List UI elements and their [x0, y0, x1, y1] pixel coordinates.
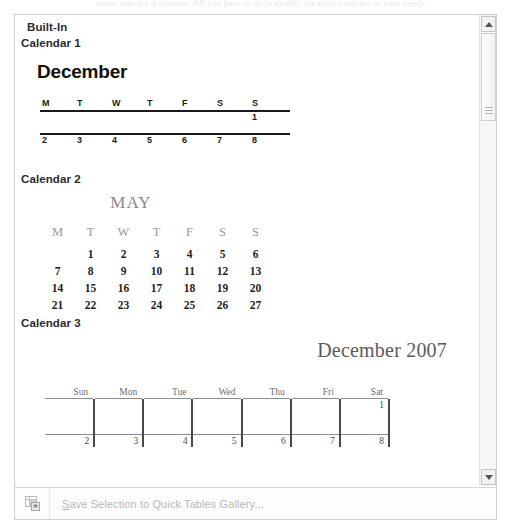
calendar-3-date-cell	[143, 399, 192, 435]
gallery-scrollbar[interactable]	[479, 15, 496, 486]
calendar-2-date-cell: 25	[173, 296, 206, 313]
calendar-2-date-cell: 5	[206, 245, 239, 262]
quick-tables-gallery-panel: Built-In Calendar 1 December M T W T F S…	[14, 14, 497, 520]
triangle-down-icon	[485, 475, 493, 480]
calendar-2-date-cell: 8	[74, 262, 107, 279]
calendar-1-date-cell	[110, 112, 145, 122]
gallery-item-calendar-2[interactable]: MAY M T W T F S S	[15, 187, 479, 315]
calendar-3-date-cell: 3	[94, 435, 143, 448]
scrollbar-up-button[interactable]	[481, 16, 496, 32]
calendar-3-day-header: Tue	[143, 387, 192, 399]
calendar-3-date-cell	[192, 399, 241, 435]
background-document-text: insert into the document. All you have t…	[96, 0, 513, 9]
calendar-3-week-row: 2 3 4 5 6 7 8	[45, 435, 389, 448]
calendar-2-week-row: 1 2 3 4 5 6	[41, 245, 272, 262]
calendar-1-date-cell	[215, 112, 250, 122]
calendar-1-day-header: T	[145, 98, 180, 108]
calendar-1-date-cell	[145, 112, 180, 122]
calendar-2-date-cell: 23	[107, 296, 140, 313]
gallery-item-calendar-1[interactable]: December M T W T F S S	[15, 51, 479, 171]
quick-tables-gallery-screen: insert into the document. All you have t…	[0, 0, 513, 530]
save-table-to-gallery-icon	[15, 488, 50, 519]
command-label-rest: ave Selection to Quick Tables Gallery...	[69, 498, 263, 510]
calendar-1-day-header-row: M T W T F S S	[40, 98, 285, 108]
calendar-2-date-cell: 16	[107, 279, 140, 296]
gallery-item-label-calendar-1: Calendar 1	[15, 35, 479, 51]
gallery-scroll-area[interactable]: Built-In Calendar 1 December M T W T F S…	[15, 15, 479, 486]
calendar-1-day-header: M	[40, 98, 75, 108]
calendar-2-day-header: T	[140, 225, 173, 245]
calendar-3-week-row: 1	[45, 399, 389, 435]
calendar-2-date-cell: 2	[107, 245, 140, 262]
calendar-3-day-header-row: Sun Mon Tue Wed Thu Fri Sat	[45, 387, 389, 399]
gallery-item-label-calendar-3: Calendar 3	[15, 315, 479, 331]
calendar-2-day-header-row: M T W T F S S	[41, 225, 272, 245]
calendar-2-date-cell: 1	[74, 245, 107, 262]
calendar-3-day-header: Wed	[192, 387, 241, 399]
calendar-2-month-title: MAY	[15, 193, 247, 213]
calendar-3-date-cell: 2	[45, 435, 94, 448]
scrollbar-grip-icon	[485, 107, 493, 114]
calendar-3-date-cell: 5	[192, 435, 241, 448]
calendar-1-date-cell: 3	[75, 135, 110, 145]
calendar-3-date-cell	[94, 399, 143, 435]
triangle-up-icon	[485, 22, 493, 27]
gallery-category-header: Built-In	[15, 15, 479, 35]
calendar-1-month-title: December	[37, 61, 127, 83]
calendar-2-date-cell: 19	[206, 279, 239, 296]
calendar-2-date-cell: 27	[239, 296, 272, 313]
gallery-item-calendar-3[interactable]: December 2007 Sun Mon Tue Wed Thu Fri Sa	[15, 331, 479, 453]
gallery-command-bar[interactable]: Save Selection to Quick Tables Gallery..…	[15, 487, 496, 519]
calendar-1-day-header: S	[215, 98, 250, 108]
calendar-2-day-header: M	[41, 225, 74, 245]
calendar-2-date-cell: 11	[173, 262, 206, 279]
calendar-2-date-cell	[41, 245, 74, 262]
calendar-1-date-cell: 2	[40, 135, 75, 145]
calendar-2-date-cell: 3	[140, 245, 173, 262]
calendar-1-day-header: S	[250, 98, 285, 108]
calendar-2-day-header: T	[74, 225, 107, 245]
calendar-1-date-cell: 1	[250, 112, 285, 122]
save-selection-to-quick-tables-gallery-button[interactable]: Save Selection to Quick Tables Gallery..…	[50, 498, 264, 510]
calendar-2-date-cell: 7	[41, 262, 74, 279]
calendar-3-day-header: Sat	[340, 387, 389, 399]
calendar-2-date-cell: 17	[140, 279, 173, 296]
calendar-2-date-cell: 22	[74, 296, 107, 313]
calendar-1-date-cell: 8	[250, 135, 285, 145]
calendar-1-day-header: F	[180, 98, 215, 108]
calendar-2-day-header: W	[107, 225, 140, 245]
calendar-1-date-cell: 7	[215, 135, 250, 145]
scrollbar-down-button[interactable]	[481, 469, 496, 485]
calendar-3-date-cell: 8	[340, 435, 389, 448]
calendar-3-day-header: Thu	[242, 387, 291, 399]
calendar-2-date-cell: 24	[140, 296, 173, 313]
calendar-1-date-cell	[40, 112, 75, 122]
calendar-2-date-cell: 4	[173, 245, 206, 262]
calendar-2-date-cell: 26	[206, 296, 239, 313]
calendar-2-date-cell: 10	[140, 262, 173, 279]
calendar-2-date-cell: 12	[206, 262, 239, 279]
calendar-2-date-cell: 15	[74, 279, 107, 296]
calendar-3-month-title: December 2007	[317, 339, 447, 362]
calendar-2-date-cell: 6	[239, 245, 272, 262]
calendar-2-date-cell: 13	[239, 262, 272, 279]
calendar-1-week-row-2: 2 3 4 5 6 7 8	[40, 135, 285, 145]
calendar-2-week-row: 14 15 16 17 18 19 20	[41, 279, 272, 296]
calendar-2-date-cell: 9	[107, 262, 140, 279]
calendar-1-date-cell: 4	[110, 135, 145, 145]
calendar-3-day-header: Mon	[94, 387, 143, 399]
calendar-3-date-cell	[242, 399, 291, 435]
scrollbar-thumb[interactable]	[481, 33, 496, 121]
calendar-1-week-row-1: 1	[40, 112, 285, 122]
calendar-3-day-header: Sun	[45, 387, 94, 399]
calendar-3-date-cell: 7	[291, 435, 340, 448]
calendar-1-date-cell: 6	[180, 135, 215, 145]
calendar-3-date-cell	[291, 399, 340, 435]
calendar-1-day-header: W	[110, 98, 145, 108]
calendar-1-date-cell	[180, 112, 215, 122]
calendar-3-date-cell	[45, 399, 94, 435]
calendar-1-day-header: T	[75, 98, 110, 108]
gallery-item-label-calendar-2: Calendar 2	[15, 171, 479, 187]
calendar-1-spacer	[40, 122, 285, 131]
calendar-2-grid: M T W T F S S 1	[41, 225, 272, 313]
